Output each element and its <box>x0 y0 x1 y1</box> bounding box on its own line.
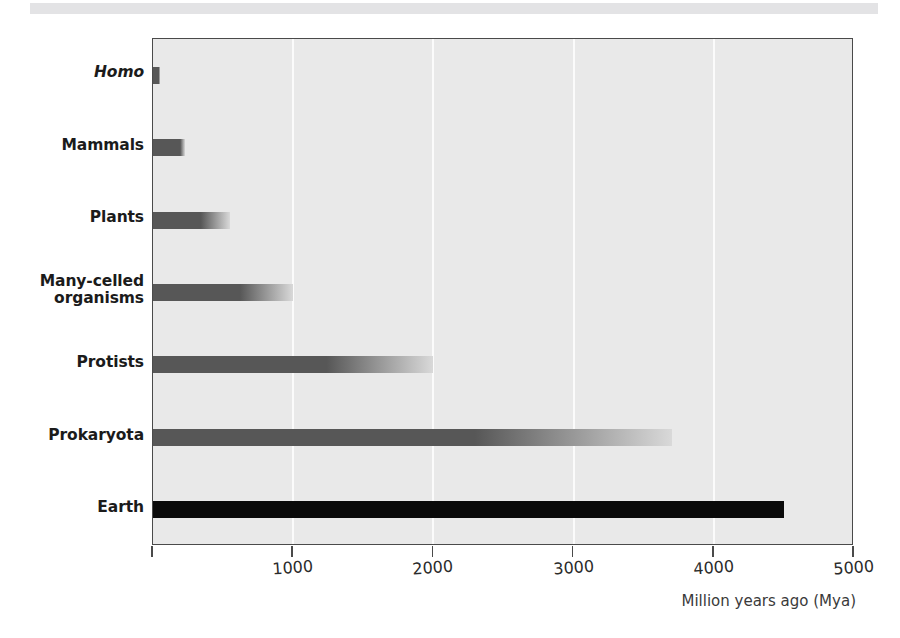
x-tick-label-1000: 1000 <box>269 556 316 578</box>
x-axis-title: Million years ago (Mya) <box>682 592 857 610</box>
x-tick-label-3000: 3000 <box>550 556 597 578</box>
x-tick-label-5000: 5000 <box>830 556 877 578</box>
x-tick-label-4000: 4000 <box>690 556 737 578</box>
x-tick-mark-2000 <box>432 546 434 557</box>
x-tick-mark-3000 <box>572 546 574 557</box>
chart-figure: HomoMammalsPlantsMany-celledorganismsPro… <box>0 0 900 638</box>
x-axis: 10002000300040005000 <box>0 0 900 638</box>
x-tick-label-2000: 2000 <box>409 556 456 578</box>
x-tick-mark-4000 <box>712 546 714 557</box>
x-tick-mark-0 <box>151 546 153 557</box>
x-tick-mark-5000 <box>852 546 854 557</box>
x-tick-mark-1000 <box>291 546 293 557</box>
